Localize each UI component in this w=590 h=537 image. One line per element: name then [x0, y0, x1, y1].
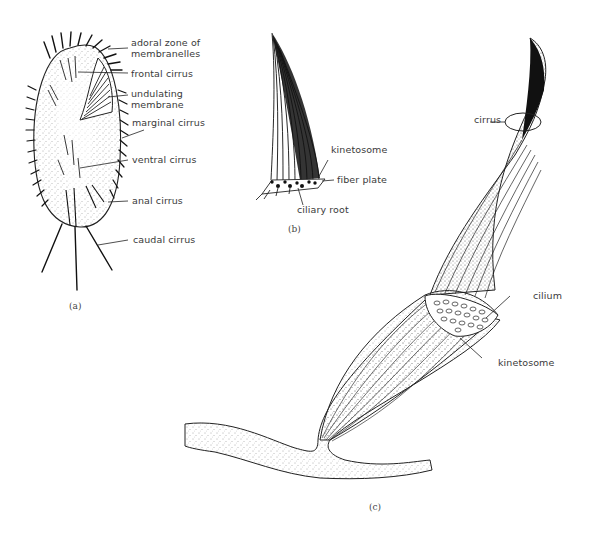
label-anal-cirrus: anal cirrus — [132, 195, 183, 206]
label-undulating-membrane-line1: undulating — [131, 88, 183, 99]
caption-panel-b: (b) — [288, 224, 301, 234]
label-adoral-zone-line2: membranelles — [131, 48, 200, 59]
label-marginal-cirrus: marginal cirrus — [132, 117, 205, 128]
panel-a-cell — [26, 32, 144, 290]
label-adoral-zone-line1: adoral zone of — [131, 37, 200, 48]
label-kinetosome-b: kinetosome — [331, 144, 387, 155]
panel-b-cirrus — [256, 33, 334, 205]
caption-panel-c: (c) — [369, 502, 381, 512]
label-cirrus-c: cirrus — [474, 114, 501, 125]
label-caudal-cirrus: caudal cirrus — [133, 234, 195, 245]
caption-panel-a: (a) — [69, 301, 81, 311]
label-fiber-plate: fiber plate — [337, 174, 387, 185]
panel-c-cirrus — [185, 38, 546, 479]
label-frontal-cirrus: frontal cirrus — [131, 68, 193, 79]
label-ciliary-root: ciliary root — [297, 204, 349, 215]
figure-canvas — [0, 0, 590, 537]
label-kinetosome-c: kinetosome — [498, 357, 554, 368]
label-ventral-cirrus: ventral cirrus — [132, 154, 196, 165]
label-cilium: cilium — [533, 290, 562, 301]
label-undulating-membrane-line2: membrane — [131, 99, 184, 110]
